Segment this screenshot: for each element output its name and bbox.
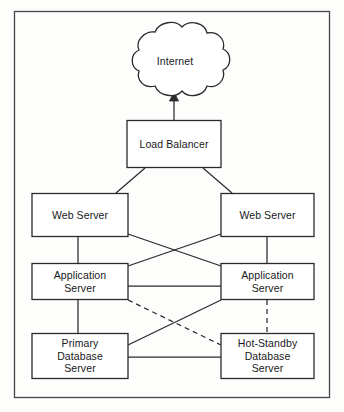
edge-db-primary-to-app-right	[128, 300, 221, 345]
diagram-graphics	[0, 0, 344, 412]
node-internet-cloud[interactable]	[132, 22, 230, 95]
node-db-standby[interactable]	[221, 334, 314, 379]
node-app-server-right[interactable]	[221, 264, 314, 300]
node-web-server-right[interactable]	[221, 194, 314, 237]
node-db-primary[interactable]	[32, 334, 128, 379]
diagram-canvas: Internet Load Balancer Web Server Web Se…	[0, 0, 344, 412]
node-load-balancer[interactable]	[127, 121, 221, 168]
edge-load-balancer-to-web-right	[203, 168, 232, 193]
node-web-server-left[interactable]	[32, 194, 128, 237]
edge-load-balancer-to-web-left	[116, 168, 145, 193]
node-app-server-left[interactable]	[32, 264, 128, 300]
